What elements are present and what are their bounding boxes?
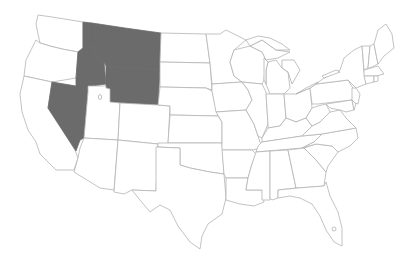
us-states-map-svg (0, 0, 402, 263)
state-rhode-island[interactable] (374, 76, 378, 82)
state-maine[interactable] (374, 24, 394, 64)
state-colorado[interactable] (118, 103, 170, 145)
us-map (0, 0, 402, 263)
state-connecticut[interactable] (364, 76, 374, 84)
state-kansas[interactable] (168, 115, 222, 143)
state-arizona[interactable] (74, 138, 118, 190)
lake-okeechobee (332, 227, 336, 231)
state-florida[interactable] (278, 182, 342, 246)
great-salt-lake (98, 95, 101, 100)
state-new-mexico[interactable] (114, 140, 158, 194)
state-wyoming[interactable] (106, 66, 160, 105)
state-north-dakota[interactable] (160, 33, 210, 63)
state-south-dakota[interactable] (160, 62, 212, 90)
